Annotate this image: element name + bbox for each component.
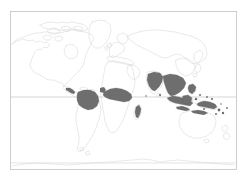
coastline-arctic-islands-detail bbox=[43, 26, 83, 41]
coastline-british-isles bbox=[105, 43, 112, 50]
coastline-china bbox=[176, 58, 195, 76]
range-indian-ocean-islets bbox=[145, 94, 161, 97]
map-canvas bbox=[0, 0, 246, 178]
range-madagascar bbox=[135, 105, 141, 118]
distribution-shading-layer bbox=[66, 72, 228, 118]
coastline-northern-asia bbox=[128, 30, 207, 64]
range-java bbox=[176, 106, 190, 111]
coastline-tasmania bbox=[204, 139, 209, 143]
coastline-north-america bbox=[12, 30, 94, 86]
range-amazon-basin bbox=[77, 90, 99, 110]
range-south-asia bbox=[147, 72, 163, 91]
coastline-antarctica bbox=[12, 159, 234, 166]
coastline-australia bbox=[179, 110, 216, 138]
coastline-southern-islands bbox=[80, 147, 90, 155]
coastline-new-zealand bbox=[222, 125, 230, 140]
range-central-africa bbox=[103, 88, 132, 102]
world-distribution-map bbox=[0, 0, 246, 178]
range-northern-australia bbox=[191, 110, 208, 115]
coastline-greenland bbox=[89, 20, 111, 48]
coastline-northeast-asia bbox=[194, 50, 203, 63]
coastline-japan bbox=[193, 64, 201, 77]
coastline-hudson-bay bbox=[64, 44, 78, 59]
range-central-america bbox=[66, 88, 75, 94]
range-southeast-asia bbox=[163, 74, 186, 96]
